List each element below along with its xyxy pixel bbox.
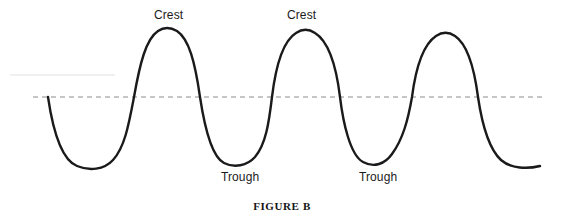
label-trough-first: Trough bbox=[221, 171, 259, 184]
figure-caption: FIGURE B bbox=[0, 200, 564, 212]
figure-b-wave-diagram: Crest Crest Trough Trough FIGURE B bbox=[0, 0, 564, 221]
label-trough-second: Trough bbox=[359, 171, 397, 184]
wave-diagram-canvas bbox=[0, 0, 564, 221]
wave-curve bbox=[48, 28, 540, 169]
label-crest-first: Crest bbox=[154, 9, 183, 22]
label-crest-second: Crest bbox=[287, 9, 316, 22]
